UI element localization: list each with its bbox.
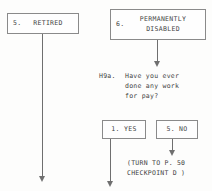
arrowhead-no-icon: [169, 150, 175, 156]
instruction-text-block: (TURN TO P. 50CHECKPOINT D ): [127, 158, 185, 178]
arrowhead-retired-icon: [39, 176, 45, 182]
answer-box-yes[interactable]: 1. YES: [102, 120, 146, 139]
answer-box-no-label: 5. NO: [157, 125, 197, 134]
flowchart-canvas: 5. RETIRED 6. PERMANENTLY DISABLED H9a.H…: [0, 0, 212, 191]
question-line-3: for pay?: [125, 92, 158, 100]
question-line-2: done any work: [125, 82, 179, 90]
answer-box-yes-label: 1. YES: [103, 125, 145, 134]
flow-box-retired-number: 5.: [13, 19, 21, 28]
question-line-1: Have you ever: [125, 72, 179, 80]
question-text-block: H9a.Have you everdone any workfor pay?: [99, 71, 179, 101]
answer-box-no[interactable]: 5. NO: [156, 120, 198, 139]
connector-line-disabled: [157, 40, 158, 63]
arrowhead-yes-icon: [107, 181, 113, 187]
instruction-line-2: CHECKPOINT D ): [127, 169, 185, 177]
flow-box-permanently-disabled[interactable]: 6. PERMANENTLY DISABLED: [110, 9, 206, 40]
connector-line-retired: [42, 34, 43, 178]
arrowhead-disabled-icon: [154, 61, 160, 67]
question-id: H9a.: [99, 71, 125, 81]
connector-line-yes: [110, 139, 111, 183]
flow-box-permanently-disabled-label: PERMANENTLY DISABLED: [111, 15, 205, 34]
flow-box-permanently-disabled-number: 6.: [116, 20, 124, 29]
flow-box-retired[interactable]: 5. RETIRED: [7, 13, 79, 34]
instruction-line-1: (TURN TO P. 50: [127, 159, 185, 167]
